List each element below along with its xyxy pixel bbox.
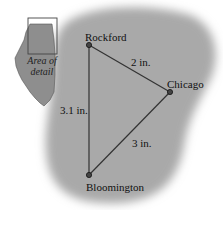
chicago-dot — [167, 89, 172, 94]
bloomington-dot — [86, 172, 91, 177]
distance-label-rockford-bloomington: 3.1 in. — [60, 105, 88, 116]
city-label-rockford: Rockford — [85, 32, 127, 43]
city-label-chicago: Chicago — [167, 79, 204, 90]
inset-label-line1: Area of — [22, 56, 62, 67]
rockford-dot — [86, 42, 91, 47]
inset-label: Area of detail — [22, 56, 62, 77]
inset-label-line2: detail — [22, 67, 62, 78]
distance-label-chicago-bloomington: 3 in. — [132, 138, 152, 149]
distance-label-rockford-chicago: 2 in. — [131, 57, 151, 68]
city-label-bloomington: Bloomington — [86, 182, 144, 193]
